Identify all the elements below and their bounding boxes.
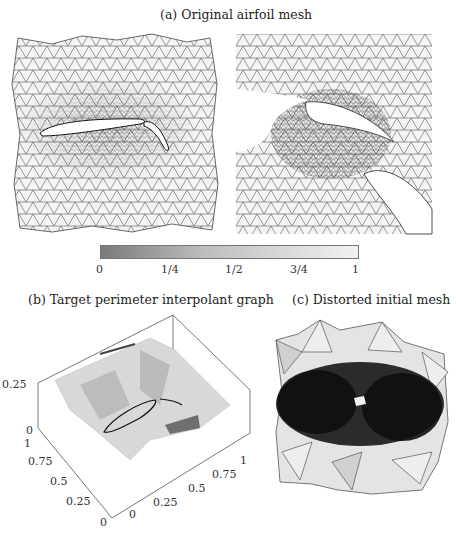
colorbar-tick-1: 1/4 <box>161 263 179 276</box>
y-tick-0.5: 0.5 <box>50 475 68 488</box>
interpolant-surface-plot <box>0 310 260 538</box>
colorbar-tick-0: 0 <box>96 263 103 276</box>
x-tick-0.25: 0.25 <box>153 496 178 509</box>
panel-a-caption: (a) Original airfoil mesh <box>160 7 312 22</box>
colorbar <box>100 245 359 259</box>
colorbar-tick-3: 3/4 <box>290 263 308 276</box>
y-tick-0.75: 0.75 <box>28 455 53 468</box>
x-tick-0.5: 0.5 <box>188 482 206 495</box>
x-tick-0.75: 0.75 <box>212 468 237 481</box>
y-tick-0.25: 0.25 <box>66 495 91 508</box>
colorbar-tick-4: 1 <box>352 263 359 276</box>
x-tick-1: 1 <box>240 454 247 467</box>
panel-c-caption: (c) Distorted initial mesh <box>292 292 450 307</box>
panel-b-caption: (b) Target perimeter interpolant graph <box>28 292 274 307</box>
z-tick-0: 0 <box>26 424 33 437</box>
z-tick-0.25: 0.25 <box>2 378 27 391</box>
airfoil-mesh-full <box>12 34 222 234</box>
airfoil-mesh-zoom <box>236 34 432 234</box>
distorted-mesh <box>272 312 452 502</box>
x-tick-0: 0 <box>129 508 136 521</box>
y-tick-1: 1 <box>24 437 31 450</box>
y-tick-0: 0 <box>100 516 107 529</box>
colorbar-tick-2: 1/2 <box>225 263 243 276</box>
